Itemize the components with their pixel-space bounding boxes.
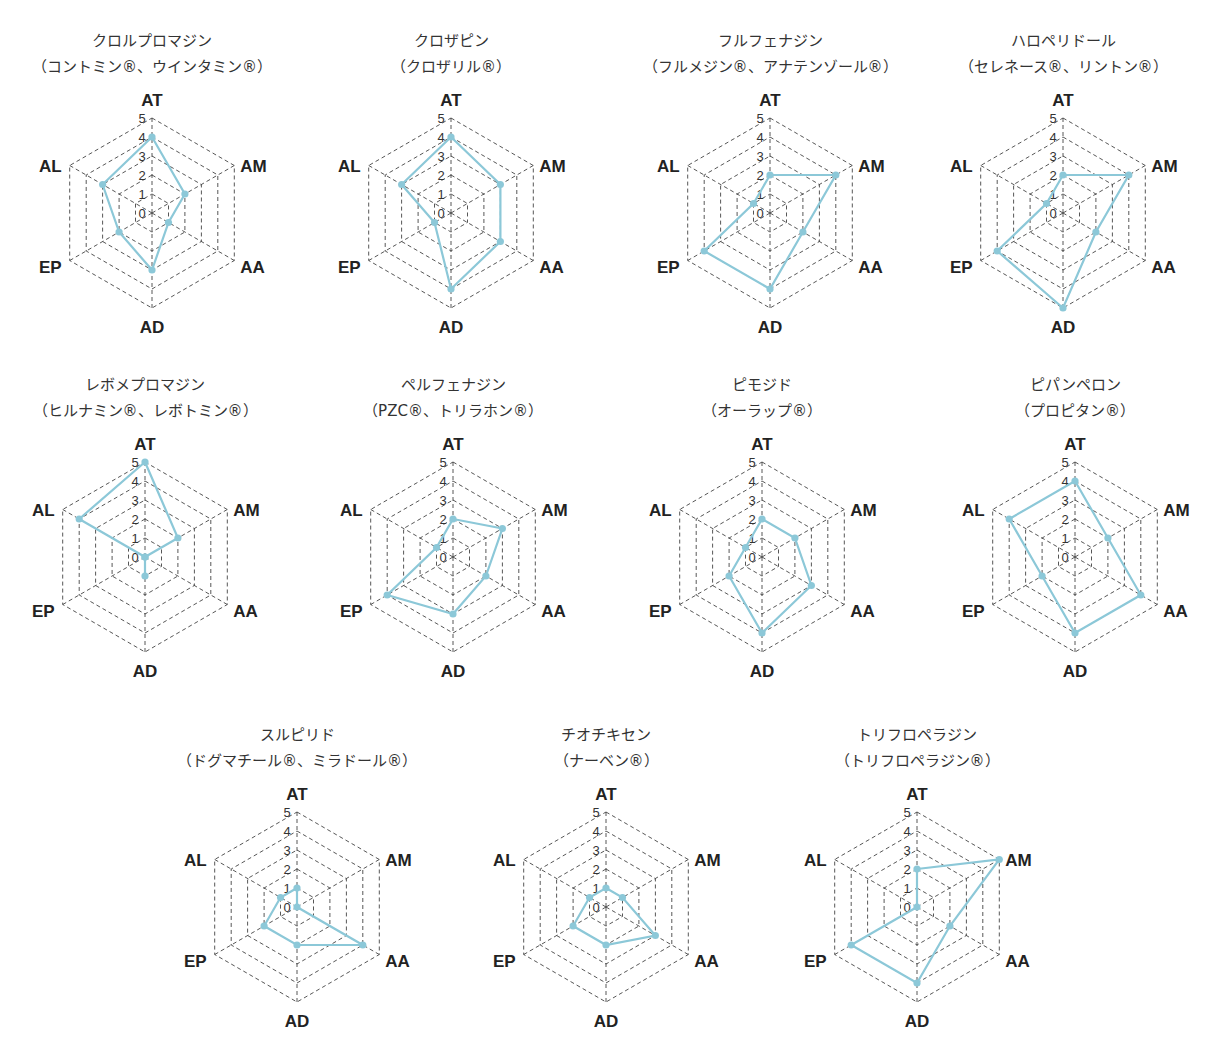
- axis-label-at: AT: [906, 785, 928, 804]
- data-point-ad: [913, 979, 920, 986]
- tick-label: 3: [903, 843, 910, 858]
- data-point-am: [996, 856, 1003, 863]
- data-point-al: [913, 903, 920, 910]
- axis-label-al: AL: [804, 851, 827, 870]
- tick-label: 1: [903, 881, 910, 896]
- axis-label-ad: AD: [905, 1012, 930, 1031]
- data-point-at: [913, 865, 920, 872]
- data-point-ep: [848, 941, 855, 948]
- axis-label-am: AM: [1005, 851, 1031, 870]
- radar-plot: 012345ATAMAAADEPAL: [0, 0, 1213, 1048]
- data-point-aa: [946, 922, 953, 929]
- axis-label-ep: EP: [804, 952, 827, 971]
- axis-label-aa: AA: [1005, 952, 1030, 971]
- data-series-line: [851, 860, 999, 984]
- tick-label: 4: [903, 824, 910, 839]
- tick-label: 2: [903, 862, 910, 877]
- tick-label: 5: [903, 805, 910, 820]
